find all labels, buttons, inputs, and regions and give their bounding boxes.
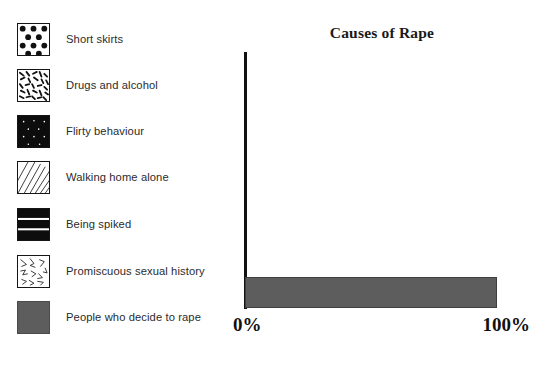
legend-item-promiscuous-sexual-history: Promiscuous sexual history (0, 251, 232, 291)
chart-title: Causes of Rape (232, 24, 532, 42)
legend-label: Promiscuous sexual history (66, 264, 205, 278)
x-axis-tick-min: 0% (233, 313, 262, 337)
legend-swatch-sparse-zigzag-icon (17, 255, 50, 288)
legend-label: Drugs and alcohol (66, 78, 158, 92)
legend-label: People who decide to rape (66, 310, 201, 324)
legend-item-flirty-behaviour: Flirty behaviour (0, 111, 232, 151)
legend-swatch-solid-gray-icon (17, 301, 50, 334)
bar-series (245, 277, 497, 308)
legend-item-being-spiked: Being spiked (0, 204, 232, 244)
bar-people-who-decide-to-rape (245, 277, 497, 308)
plot-area: Causes of Rape 0% 100% (232, 0, 539, 368)
legend-item-walking-home-alone: Walking home alone (0, 157, 232, 197)
legend-label: Walking home alone (66, 170, 169, 184)
legend-label: Flirty behaviour (66, 124, 144, 138)
legend-swatch-dotted-on-black-icon (17, 115, 50, 148)
legend-item-people-who-decide-to-rape: People who decide to rape (0, 297, 232, 337)
legend-swatch-confetti-dashes-icon (17, 69, 50, 102)
legend-swatch-horizontal-stripes-icon (17, 208, 50, 241)
y-axis-line (244, 52, 247, 309)
x-axis-tick-max: 100% (405, 313, 530, 337)
legend-swatch-polka-dots-icon (17, 23, 50, 56)
legend-label: Being spiked (66, 217, 131, 231)
chart-legend: Short skirts (0, 0, 232, 368)
chart-figure: Short skirts (0, 0, 539, 368)
legend-swatch-diagonal-hatch-icon (17, 161, 50, 194)
legend-label: Short skirts (66, 32, 123, 46)
legend-item-short-skirts: Short skirts (0, 19, 232, 59)
legend-item-drugs-and-alcohol: Drugs and alcohol (0, 65, 232, 105)
